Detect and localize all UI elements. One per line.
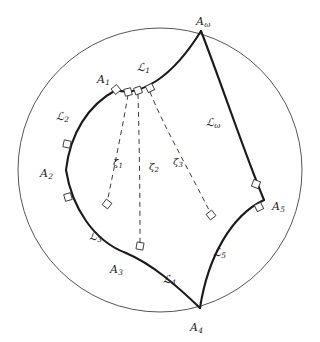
side-label-L5-base: ℒ: [213, 246, 221, 259]
side-label-L1: ℒ1: [137, 58, 150, 75]
side-L1-arc: [116, 31, 201, 91]
side-label-Lomega-sub: ω: [214, 121, 220, 130]
vertex-label-A2: A2: [40, 164, 53, 181]
vertex-label-Aomega-base: A: [196, 15, 204, 28]
side-label-Lomega-base: ℒ: [206, 116, 214, 129]
side-label-L3: ℒ3: [89, 227, 102, 244]
vertex-label-A4-sub: 4: [198, 326, 203, 335]
side-label-L4: ℒ4: [163, 270, 176, 287]
side-label-L4-sub: 4: [171, 278, 176, 287]
side-label-L5: ℒ5: [213, 243, 226, 260]
side-label-L2-base: ℒ: [56, 110, 64, 123]
right-angle-marker-L3-zeta1: [102, 199, 112, 209]
geodesic-label-zeta2-sub: 2: [154, 166, 159, 174]
geodesic-label-zeta1-sub: 1: [118, 162, 123, 170]
vertex-label-A5-sub: 5: [280, 205, 285, 214]
vertex-label-A2-base: A: [40, 167, 48, 180]
vertex-label-A5: A5: [272, 197, 285, 214]
geodesic-label-zeta3: ζ3: [173, 152, 183, 169]
vertex-label-A2-sub: 2: [48, 172, 53, 181]
side-label-L2-sub: 2: [64, 115, 69, 124]
vertex-label-A1: A1: [97, 70, 110, 87]
geodesic-label-zeta2: ζ2: [149, 157, 159, 174]
vertex-label-A4-base: A: [190, 321, 198, 334]
right-angle-marker-L1-zeta2: [134, 86, 143, 95]
side-label-L1-sub: 1: [145, 66, 150, 75]
side-label-L5-sub: 5: [221, 251, 226, 260]
vertex-label-A3: A3: [110, 260, 123, 277]
side-label-Lomega: ℒω: [206, 113, 220, 130]
vertex-label-A4: A4: [190, 318, 203, 335]
vertex-label-A1-sub: 1: [105, 78, 110, 87]
right-angle-marker-A3-zeta2: [136, 242, 144, 250]
geodesic-label-zeta1: ζ1: [113, 153, 123, 170]
vertex-label-A3-base: A: [110, 263, 118, 276]
vertex-label-Aomega: Aω: [196, 12, 210, 29]
disk-boundary-circle: [18, 28, 302, 312]
geodesic-zeta1-arc: [107, 95, 128, 203]
right-angle-marker-L5-zeta3: [206, 210, 216, 220]
right-angle-marker-L1-zeta3: [145, 83, 154, 92]
right-angle-marker-A2-lower: [64, 193, 73, 202]
vertex-label-A3-sub: 3: [118, 268, 123, 277]
side-label-L3-sub: 3: [97, 235, 102, 244]
side-L2-arc: [66, 90, 116, 170]
vertex-label-A1-base: A: [97, 73, 105, 86]
hexagon-sides: [66, 31, 264, 308]
side-label-L3-base: ℒ: [89, 230, 97, 243]
geodesic-label-zeta3-sub: 3: [178, 161, 183, 169]
hyperbolic-disk-figure: A1 A2 A3 A4 A5 Aω ℒ1 ℒ2 ℒ3 ℒ4 ℒ5 ℒω ζ1 ζ…: [0, 0, 320, 342]
side-label-L4-base: ℒ: [163, 273, 171, 286]
side-label-L2: ℒ2: [56, 107, 69, 124]
vertex-label-A5-base: A: [272, 200, 280, 213]
right-angle-marker-A2-upper: [63, 140, 71, 148]
geodesic-zeta2-arc: [138, 94, 140, 244]
vertex-label-Aomega-sub: ω: [204, 20, 210, 29]
right-angle-marker-L1-zeta1: [124, 88, 132, 96]
side-label-L1-base: ℒ: [137, 61, 145, 74]
